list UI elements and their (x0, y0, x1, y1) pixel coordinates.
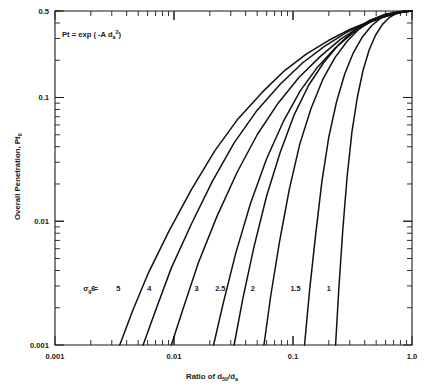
x-axis-title-main: Ratio of d (186, 372, 222, 381)
curve-label-3: 3 (195, 284, 199, 293)
y-axis-ticks (55, 11, 412, 345)
equation-main: Pt = exp ( -A d (62, 30, 113, 39)
curve-label-1: 1 (327, 284, 331, 293)
x-tick-label: 0.1 (288, 352, 299, 361)
y-axis-title: Overall Penetration, Pt0 (13, 133, 23, 220)
curve-group (120, 11, 412, 345)
x-axis-title: Ratio of d50/da (186, 372, 239, 382)
y-tick-label: 0.1 (38, 93, 49, 102)
curve-sigma-6 (120, 11, 412, 345)
axis-box (55, 11, 412, 345)
y-axis-tick-labels: 0.0010.010.10.5 (30, 7, 50, 350)
y-tick-label: 0.5 (38, 7, 49, 16)
curve-sigma-5 (143, 11, 412, 345)
x-axis-ticks (55, 11, 412, 345)
x-tick-label: 0.001 (45, 352, 65, 361)
x-axis-tick-labels: 0.0010.010.11.0 (45, 352, 417, 361)
x-axis-title-sub2: a (235, 376, 239, 382)
equation-close: ) (119, 30, 122, 39)
sigma-equals: = (92, 284, 99, 293)
penetration-chart-figure: Pt = exp ( -A da2) Overall Penetration, … (0, 0, 424, 387)
curve-sigma-1 (336, 11, 412, 345)
y-tick-label: 0.001 (30, 341, 50, 350)
curve-labels: 65432.521.51 (91, 284, 331, 293)
y-tick-label: 0.01 (34, 217, 50, 226)
x-tick-label: 0.01 (167, 352, 183, 361)
plot-frame (55, 11, 412, 345)
curve-label-2p5: 2.5 (215, 284, 225, 293)
curve-label-4: 4 (147, 284, 152, 293)
legend-sigma-label: σg = (83, 284, 98, 294)
curve-label-5: 5 (116, 284, 120, 293)
x-tick-label: 1.0 (407, 352, 418, 361)
sigma-g-legend-text: σg = (83, 284, 98, 294)
y-axis-title-main: Overall Penetration, Pt (13, 136, 22, 220)
chart-svg: Pt = exp ( -A da2) Overall Penetration, … (0, 0, 424, 387)
y-axis-title-sub: 0 (17, 133, 23, 136)
curve-label-2: 2 (251, 284, 255, 293)
equation-annotation: Pt = exp ( -A da2) (62, 29, 122, 40)
curve-label-1p5: 1.5 (290, 284, 300, 293)
curve-sigma-1p5 (305, 11, 412, 345)
